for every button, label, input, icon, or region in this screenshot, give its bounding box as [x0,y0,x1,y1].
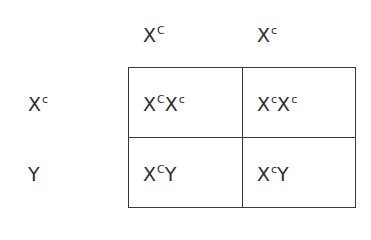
cell-r1-c2: XcXc [257,95,297,114]
grid-divider-horizontal [129,137,355,138]
allele-superscript: c [271,163,277,176]
allele-superscript: C [157,93,165,106]
allele-superscript: c [291,93,297,106]
allele-base: X [277,93,290,115]
column-header-2: Xc [257,26,277,45]
column-header-1: XC [143,26,165,45]
allele-base: X [143,163,156,185]
cell-r1-c1: XCXc [143,95,185,114]
allele-base: Y [165,163,177,185]
allele-base: X [257,163,270,185]
allele-superscript: C [157,24,165,37]
allele-superscript: c [271,24,277,37]
allele-base: X [165,93,178,115]
allele-base: Y [28,163,40,185]
allele-base: Y [277,163,289,185]
allele-superscript: c [42,93,48,106]
punnett-grid [128,67,356,208]
allele-base: X [257,93,270,115]
allele-base: X [28,93,41,115]
allele-superscript: c [271,93,277,106]
allele-base: X [257,24,270,46]
row-header-1: Xc [28,95,48,114]
cell-r2-c2: XcY [257,165,289,184]
cell-r2-c1: XCY [143,165,176,184]
allele-superscript: C [157,163,165,176]
allele-base: X [143,24,156,46]
allele-base: X [143,93,156,115]
allele-superscript: c [179,93,185,106]
row-header-2: Y [28,165,41,184]
